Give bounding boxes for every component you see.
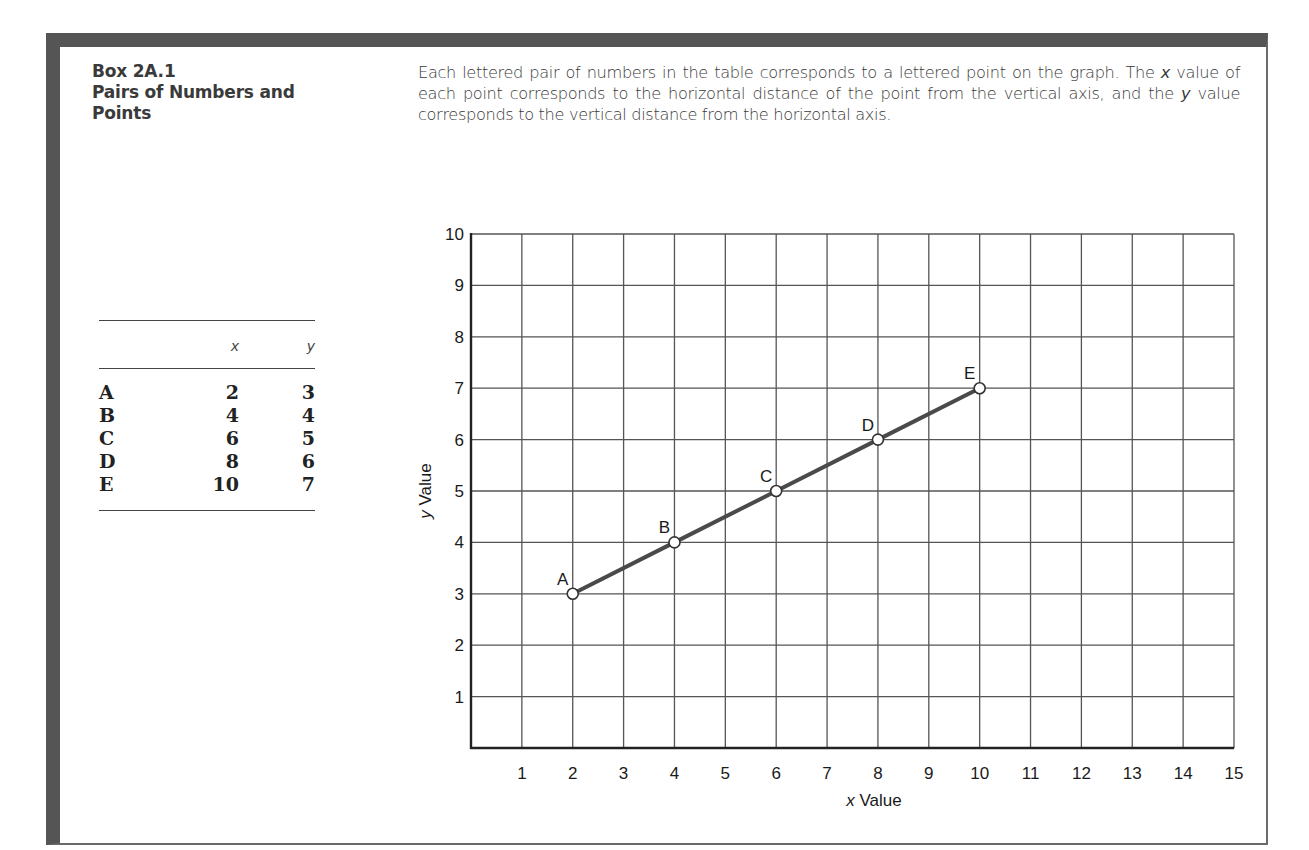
data-point-label: C: [760, 467, 772, 486]
y-tick-label: 1: [455, 688, 464, 707]
x-tick-label: 13: [1123, 764, 1142, 783]
x-tick-label: 11: [1022, 764, 1040, 783]
data-point-marker: [974, 383, 985, 394]
data-point-marker: [771, 486, 782, 497]
x-tick-label: 5: [721, 764, 730, 783]
x-tick-label: 8: [873, 764, 882, 783]
y-tick-label: 7: [455, 379, 464, 398]
x-tick-label: 9: [924, 764, 933, 783]
y-axis-label: y Value: [416, 463, 435, 519]
x-tick-label: 7: [822, 764, 831, 783]
y-tick-label: 9: [455, 276, 464, 295]
data-point-marker: [567, 588, 578, 599]
x-tick-label: 15: [1225, 764, 1244, 783]
y-tick-label: 2: [455, 636, 464, 655]
y-tick-label: 5: [455, 482, 464, 501]
data-point-marker: [872, 434, 883, 445]
data-point-label: E: [964, 364, 975, 383]
y-tick-label: 4: [455, 533, 464, 552]
data-point-label: D: [862, 416, 874, 435]
y-tick-label: 8: [455, 328, 464, 347]
x-tick-label: 14: [1174, 764, 1193, 783]
x-tick-label: 6: [771, 764, 780, 783]
x-tick-label: 10: [970, 764, 989, 783]
x-tick-label: 1: [517, 764, 526, 783]
x-tick-label: 4: [670, 764, 679, 783]
data-point-label: A: [557, 570, 569, 589]
y-axis-word: Value: [416, 463, 435, 505]
data-point-marker: [669, 537, 680, 548]
xy-chart: 12345678910111213141512345678910x Valuey…: [0, 0, 1309, 850]
x-tick-label: 12: [1072, 764, 1091, 783]
y-tick-label: 10: [445, 225, 464, 244]
x-tick-label: 3: [619, 764, 628, 783]
x-axis-label: x Value: [845, 791, 901, 810]
x-tick-label: 2: [568, 764, 577, 783]
y-tick-label: 3: [455, 585, 464, 604]
x-axis-var: x: [845, 791, 855, 810]
y-tick-label: 6: [455, 431, 464, 450]
data-point-label: B: [659, 518, 670, 537]
x-axis-word: Value: [859, 791, 901, 810]
